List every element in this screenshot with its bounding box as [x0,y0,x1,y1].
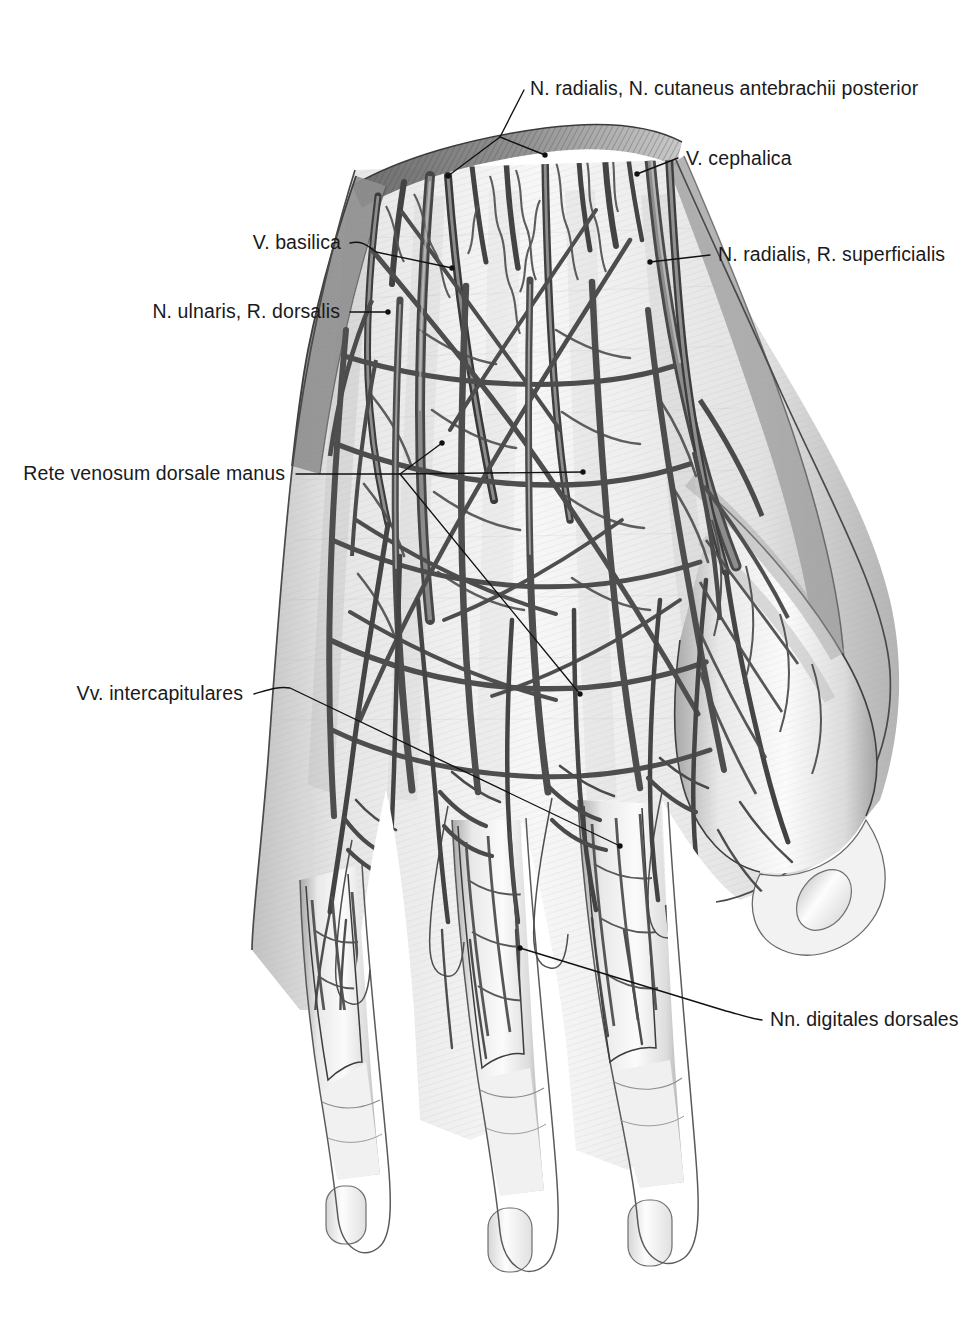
label-text-n-radialis-r-superficialis: N. radialis, R. superficialis [718,243,945,265]
fingernail-little [326,1186,366,1244]
fingernail-middle [628,1200,672,1266]
label-text-vv-intercapitulares: Vv. intercapitulares [77,682,244,704]
label-text-v-cephalica: V. cephalica [686,147,792,169]
label-text-n-ulnaris-r-dorsalis: N. ulnaris, R. dorsalis [152,300,340,322]
label-text-nn-digitales-dorsales: Nn. digitales dorsales [770,1008,959,1030]
anatomical-plate: N. radialis, N. cutaneus antebrachii pos… [0,0,978,1328]
label-text-n-radialis-cutaneus-antebrachii-posterior: N. radialis, N. cutaneus antebrachii pos… [530,77,919,99]
hand-dissection-illustration: N. radialis, N. cutaneus antebrachii pos… [0,0,978,1328]
label-text-rete-venosum-dorsale-manus: Rete venosum dorsale manus [23,462,285,484]
fingernail-ring [488,1208,532,1272]
label-text-v-basilica: V. basilica [253,231,341,253]
